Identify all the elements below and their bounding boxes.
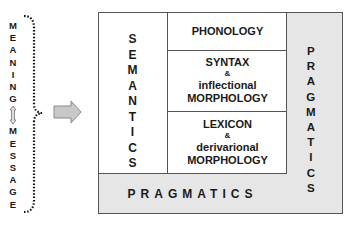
letter: G [9,93,16,105]
double-arrow-icon [9,105,17,125]
letter: A [128,79,137,95]
syntax-line2: inflectional [198,79,256,92]
letter: I [12,69,15,81]
letter: C [307,166,315,181]
letter: T [307,135,314,150]
syntax-line3: MORPHOLOGY [187,92,268,105]
letter: E [10,32,16,44]
semantics-column: S E M A N T I C S [98,12,168,174]
phonology-label: PHONOLOGY [192,25,264,37]
letter: E [10,138,16,150]
letter: M [9,125,17,137]
letter: S [128,32,136,48]
lexicon-line2: derivarional [196,141,258,154]
letter: G [9,186,16,198]
letter: N [128,94,137,110]
syntax-title: SYNTAX [206,56,250,69]
letter: P [307,44,315,59]
ampersand: & [225,69,231,79]
letter: A [307,74,315,89]
syntax-cell: SYNTAX & inflectional MORPHOLOGY [168,50,287,112]
letter: A [10,174,17,186]
letter: A [10,44,17,56]
lexicon-line3: MORPHOLOGY [187,154,268,167]
lexicon-cell: LEXICON & derivarional MORPHOLOGY [168,111,287,174]
letter: M [9,20,17,32]
ampersand: & [225,131,231,141]
letter: S [10,150,16,162]
letter: N [10,57,17,69]
letter: E [10,199,16,211]
lexicon-title: LEXICON [203,118,252,131]
letter: S [307,181,315,196]
letter: A [307,120,315,135]
letter: R [307,59,315,74]
letter: I [131,125,134,141]
curly-brace-icon [20,14,46,214]
meaning-message-label: M E A N I N G M E S S A G E [6,20,20,211]
letter: S [128,156,136,172]
pragmatics-bottom-label: PRAGMATICS [98,174,287,214]
letter: I [309,150,312,165]
letter: S [10,162,16,174]
phonology-cell: PHONOLOGY [168,12,287,51]
letter: C [128,141,137,157]
pragmatics-right-label: P R A G M A T I C S [306,44,316,196]
letter: E [128,48,136,64]
semantics-label: S E M A N T I C S [128,32,138,174]
letter: N [10,81,17,93]
letter: M [306,105,316,120]
right-arrow-icon [53,100,83,124]
letter: M [128,63,138,79]
letter: G [306,90,315,105]
letter: T [129,110,136,126]
